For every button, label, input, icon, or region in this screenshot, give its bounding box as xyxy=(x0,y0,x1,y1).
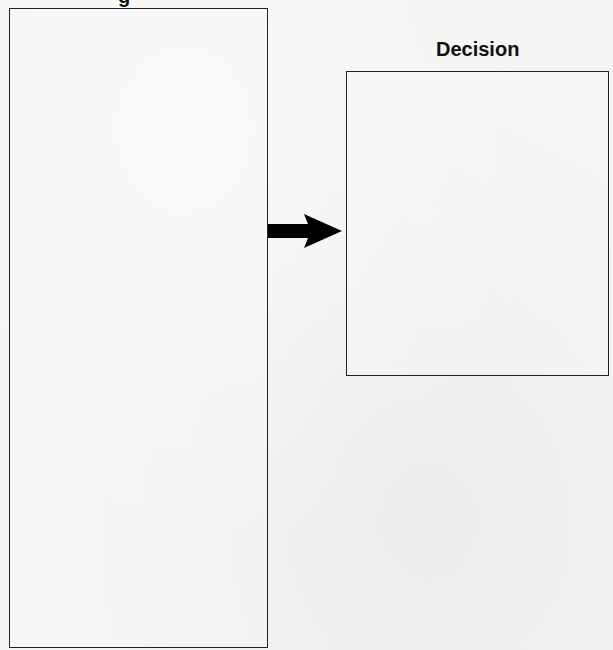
right-arrow-icon xyxy=(268,214,342,248)
left-panel-box xyxy=(9,8,268,648)
left-panel-title-fragment: g xyxy=(118,0,130,6)
decision-box xyxy=(346,71,609,376)
decision-title: Decision xyxy=(436,38,519,61)
